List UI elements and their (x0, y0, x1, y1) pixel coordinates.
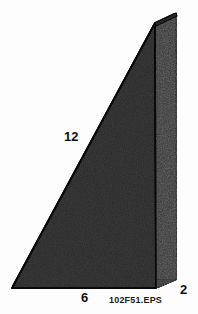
prism-illustration (0, 0, 198, 314)
front-vertical-edge (155, 23, 156, 288)
dimension-label-depth: 2 (180, 283, 187, 296)
figure-container: 12 6 2 102F51.EPS (0, 0, 198, 314)
figure-caption: 102F51.EPS (109, 295, 162, 305)
dimension-label-base: 6 (81, 291, 88, 304)
prism-side-face (155, 13, 177, 288)
dimension-label-hypotenuse: 12 (64, 130, 78, 143)
